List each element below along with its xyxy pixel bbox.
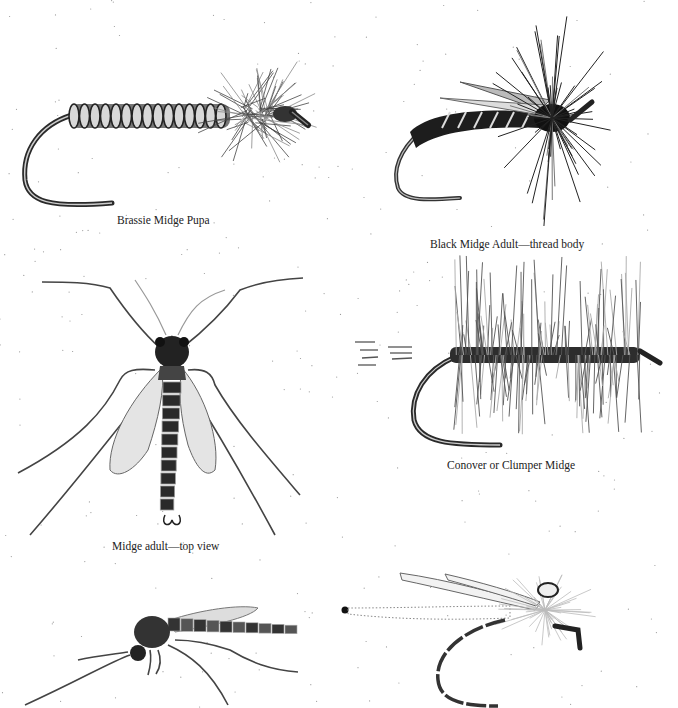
abdomen-segment	[220, 621, 232, 632]
stipple-dot	[43, 251, 44, 252]
stipple-dot	[508, 553, 509, 554]
wire-wrap	[69, 104, 79, 128]
abdomen-segment	[194, 620, 206, 632]
stipple-dot	[462, 500, 463, 501]
stipple-dot	[575, 531, 576, 532]
stipple-dot	[224, 19, 225, 20]
figure-emerger-pattern	[340, 560, 640, 708]
legs	[25, 640, 298, 705]
tail-claspers	[164, 515, 181, 525]
caption-conover-midge: Conover or Clumper Midge	[447, 459, 575, 471]
hackle-fiber	[551, 274, 553, 355]
stipple-dot	[654, 565, 655, 566]
emerger-pattern-illustration	[340, 560, 640, 708]
abdomen-segment	[181, 619, 193, 632]
abdomen-segment	[162, 447, 178, 458]
hackle-fiber	[502, 610, 545, 629]
abdomen-segment	[160, 499, 174, 510]
hackle-fiber	[484, 279, 489, 355]
stipple-dot	[192, 553, 193, 554]
stipple-dot	[647, 133, 648, 134]
abdomen-segment	[162, 408, 179, 419]
hook	[396, 132, 460, 199]
hackle-fiber	[494, 355, 498, 413]
wire-wrap	[195, 104, 205, 128]
stipple-dot	[603, 475, 604, 476]
stipple-dot	[375, 17, 376, 18]
stipple-dot	[337, 497, 338, 498]
abdomen-segment	[285, 625, 297, 634]
hackle-fiber	[552, 52, 603, 118]
tail-fibers	[355, 342, 412, 365]
wire-wrap	[80, 104, 90, 128]
stipple-dot	[656, 632, 657, 633]
stipple-dot	[4, 254, 5, 255]
wire-wrap	[164, 104, 174, 128]
stipple-dot	[11, 556, 12, 557]
abdomen-segment	[161, 460, 176, 471]
stipple-dot	[115, 563, 116, 564]
hackle-fiber	[495, 610, 545, 625]
stipple-dot	[104, 547, 105, 548]
stipple-dot	[337, 166, 338, 167]
stipple-dot	[614, 489, 615, 490]
stipple-dot	[647, 230, 648, 231]
hook	[25, 115, 112, 205]
hackle-fiber	[511, 265, 516, 355]
stipple-dot	[333, 65, 334, 66]
stipple-dot	[226, 237, 227, 238]
stipple-dot	[352, 168, 353, 169]
figure-midge-adult-top	[0, 270, 320, 535]
hackle-fiber	[625, 355, 630, 423]
stipple-dot	[35, 261, 36, 262]
wire-wrap	[185, 104, 195, 128]
stipple-dot	[84, 561, 85, 562]
hackle-fibers	[454, 255, 642, 434]
stipple-dot	[535, 501, 536, 502]
stipple-dot	[370, 233, 371, 234]
stipple-dot	[82, 230, 83, 231]
hackle-fiber	[580, 281, 582, 355]
stipple-dot	[297, 267, 298, 268]
stipple-dot	[334, 36, 335, 37]
stipple-dot	[214, 222, 215, 223]
stipple-dot	[5, 535, 6, 536]
stipple-dot	[324, 293, 325, 294]
stipple-dot	[602, 243, 603, 244]
trailing-shuck	[348, 606, 510, 619]
conover-midge-illustration	[340, 255, 678, 455]
stipple-dot	[479, 493, 480, 494]
wire-wrap	[122, 104, 132, 128]
stipple-dot	[644, 1, 645, 2]
stipple-dot	[395, 545, 396, 546]
wire-wrap	[111, 104, 121, 128]
midge-adult-top-illustration	[0, 270, 320, 535]
wire-body	[69, 104, 230, 128]
wire-wrap	[143, 104, 153, 128]
figure-conover-midge	[340, 255, 678, 455]
stipple-dot	[155, 587, 156, 588]
stipple-dot	[259, 559, 260, 560]
stipple-dot	[88, 230, 89, 231]
thorax	[134, 616, 170, 648]
stipple-dot	[213, 15, 214, 16]
wire-wrap	[153, 104, 163, 128]
stipple-dot	[598, 471, 599, 472]
hackle-fiber	[610, 296, 615, 355]
caption-brassie-midge-pupa: Brassie Midge Pupa	[117, 214, 210, 226]
stipple-dot	[549, 531, 550, 532]
stipple-dot	[114, 26, 115, 27]
abdomen-segment	[161, 473, 176, 484]
stipple-dot	[366, 37, 367, 38]
abdomen-segment	[168, 618, 180, 631]
stipple-dot	[9, 16, 10, 17]
hackle-fiber	[552, 118, 580, 202]
caption-midge-adult-top: Midge adult—top view	[112, 540, 219, 552]
stipple-dot	[614, 479, 615, 480]
stipple-dot	[90, 8, 91, 9]
stipple-dot	[477, 10, 478, 11]
stipple-dot	[55, 14, 56, 15]
stipple-dot	[443, 5, 444, 6]
stipple-dot	[211, 578, 212, 579]
stipple-dot	[651, 618, 652, 619]
